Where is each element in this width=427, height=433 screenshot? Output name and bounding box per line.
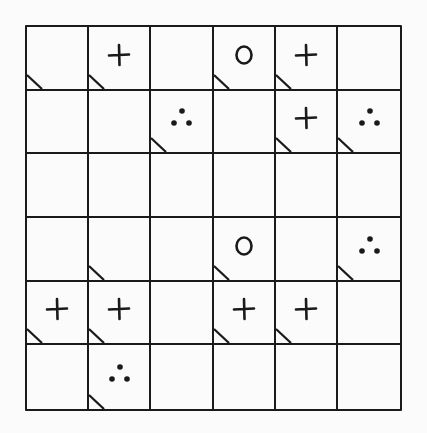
three-dots-icon xyxy=(105,360,133,388)
corner-triangle-icon xyxy=(214,327,230,343)
symbol-grid xyxy=(25,25,402,411)
grid-cell-r2-c4 xyxy=(214,91,276,155)
circle-icon xyxy=(230,41,258,69)
grid-cell-r6-c6 xyxy=(338,345,400,409)
grid-cell-r2-c1 xyxy=(27,91,89,155)
grid-cell-r3-c1 xyxy=(27,154,89,218)
corner-triangle-icon xyxy=(27,73,43,89)
corner-triangle-icon xyxy=(89,393,105,409)
grid-cell-r5-c3 xyxy=(151,282,213,346)
plus-icon xyxy=(292,41,320,69)
corner-triangle-icon xyxy=(338,136,354,152)
grid-cell-r3-c6 xyxy=(338,154,400,218)
grid-cell-r5-c1 xyxy=(27,282,89,346)
grid-cell-r4-c5 xyxy=(276,218,338,282)
corner-triangle-icon xyxy=(89,327,105,343)
plus-icon xyxy=(105,295,133,323)
plus-icon xyxy=(292,104,320,132)
grid-cell-r3-c5 xyxy=(276,154,338,218)
grid-cell-r1-c2 xyxy=(89,27,151,91)
three-dots-icon xyxy=(355,104,383,132)
grid-cell-r1-c6 xyxy=(338,27,400,91)
grid-cell-r1-c4 xyxy=(214,27,276,91)
grid-cell-r2-c5 xyxy=(276,91,338,155)
plus-icon xyxy=(230,295,258,323)
grid-cell-r3-c3 xyxy=(151,154,213,218)
grid-cell-r1-c1 xyxy=(27,27,89,91)
corner-triangle-icon xyxy=(89,264,105,280)
grid-cell-r4-c1 xyxy=(27,218,89,282)
grid-cell-r1-c5 xyxy=(276,27,338,91)
grid-cell-r4-c3 xyxy=(151,218,213,282)
grid-cell-r6-c4 xyxy=(214,345,276,409)
grid-cell-r2-c2 xyxy=(89,91,151,155)
circle-icon xyxy=(230,232,258,260)
corner-triangle-icon xyxy=(338,264,354,280)
corner-triangle-icon xyxy=(151,136,167,152)
grid-cell-r6-c2 xyxy=(89,345,151,409)
grid-cell-r5-c2 xyxy=(89,282,151,346)
three-dots-icon xyxy=(167,104,195,132)
corner-triangle-icon xyxy=(276,73,292,89)
grid-cell-r4-c4 xyxy=(214,218,276,282)
grid-cell-r5-c4 xyxy=(214,282,276,346)
plus-icon xyxy=(292,295,320,323)
corner-triangle-icon xyxy=(214,264,230,280)
grid-cell-r3-c2 xyxy=(89,154,151,218)
corner-triangle-icon xyxy=(276,136,292,152)
corner-triangle-icon xyxy=(276,327,292,343)
corner-triangle-icon xyxy=(214,73,230,89)
grid-cell-r4-c6 xyxy=(338,218,400,282)
plus-icon xyxy=(105,41,133,69)
three-dots-icon xyxy=(355,232,383,260)
grid-cell-r5-c6 xyxy=(338,282,400,346)
corner-triangle-icon xyxy=(89,73,105,89)
grid-cell-r6-c1 xyxy=(27,345,89,409)
grid-cell-r2-c6 xyxy=(338,91,400,155)
grid-cell-r6-c3 xyxy=(151,345,213,409)
grid-cell-r4-c2 xyxy=(89,218,151,282)
grid-cell-r6-c5 xyxy=(276,345,338,409)
grid-cell-r2-c3 xyxy=(151,91,213,155)
grid-cell-r1-c3 xyxy=(151,27,213,91)
corner-triangle-icon xyxy=(27,327,43,343)
grid-cell-r5-c5 xyxy=(276,282,338,346)
grid-cell-r3-c4 xyxy=(214,154,276,218)
plus-icon xyxy=(43,295,71,323)
